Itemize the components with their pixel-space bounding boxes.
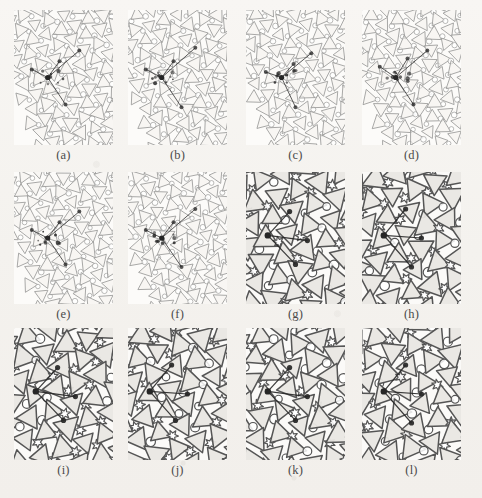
panel-caption-i: (i) xyxy=(14,463,113,478)
lattice-panel-c xyxy=(246,10,345,145)
lattice-panel-a xyxy=(14,10,113,145)
lattice-panel-h xyxy=(362,172,461,304)
lattice-panel-g xyxy=(246,172,345,304)
panel-caption-j: (j) xyxy=(128,463,227,478)
figure-panel-grid: (a)(b)(c)(d)(e)(f)(g)(h)(i)(j)(k)(l) xyxy=(0,0,482,498)
panel-caption-e: (e) xyxy=(14,307,113,322)
lattice-panel-l xyxy=(362,328,461,460)
panel-caption-k: (k) xyxy=(246,463,345,478)
lattice-panel-b xyxy=(128,10,227,145)
panel-caption-l: (l) xyxy=(362,463,461,478)
panel-caption-g: (g) xyxy=(246,307,345,322)
panel-caption-b: (b) xyxy=(128,148,227,163)
lattice-panel-j xyxy=(128,328,227,460)
panel-caption-a: (a) xyxy=(14,148,113,163)
lattice-panel-k xyxy=(246,328,345,460)
lattice-panel-i xyxy=(14,328,113,460)
lattice-panel-f xyxy=(128,172,227,304)
panel-caption-c: (c) xyxy=(246,148,345,163)
lattice-panel-d xyxy=(362,10,461,145)
lattice-panel-e xyxy=(14,172,113,304)
panel-caption-h: (h) xyxy=(362,307,461,322)
panel-caption-f: (f) xyxy=(128,307,227,322)
panel-caption-d: (d) xyxy=(362,148,461,163)
